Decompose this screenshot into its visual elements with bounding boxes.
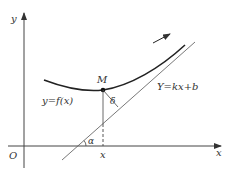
x-axis-label: x — [216, 147, 222, 158]
asymptote-label: Y=kx+b — [157, 81, 198, 92]
point-m-label: M — [96, 74, 108, 85]
delta-label: δ — [110, 96, 115, 106]
angle-arc — [84, 141, 86, 147]
asymptote-line — [62, 42, 195, 160]
direction-arrow-icon — [153, 34, 170, 43]
foot-x-label: x — [100, 149, 106, 160]
origin-label: O — [9, 150, 17, 161]
curve-label: y=f(x) — [41, 95, 73, 106]
asymptote-diagram: y x O y=f(x) Y=kx+b M x δ α — [0, 0, 230, 180]
y-axis-label: y — [10, 13, 17, 24]
alpha-label: α — [88, 136, 94, 146]
